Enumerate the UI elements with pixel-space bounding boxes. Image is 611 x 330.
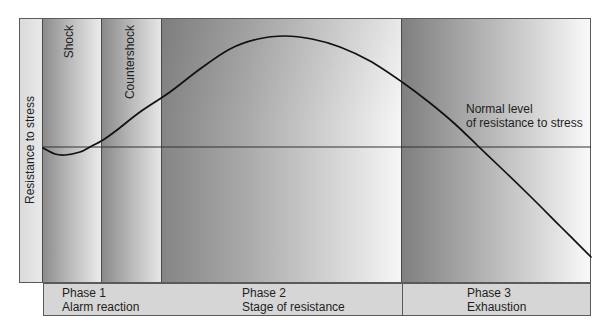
normal-level-label: Normal level of resistance to stress [466, 102, 583, 130]
y-axis-label: Resistance to stress [23, 60, 37, 240]
general-adaptation-syndrome-diagram: Resistance to stress Shock Countershock … [0, 0, 611, 330]
phase-2-stage: Stage of resistance [242, 300, 345, 314]
phase-2-name: Phase 2 [242, 286, 345, 300]
phase-1-box: Phase 1 Alarm reaction [43, 283, 163, 316]
normal-level-label-line2: of resistance to stress [466, 116, 583, 130]
phase-1-name: Phase 1 [62, 286, 139, 300]
phase-1-stage: Alarm reaction [62, 300, 139, 314]
curve-layer [0, 0, 611, 330]
phase-3-stage: Exhaustion [467, 300, 526, 314]
phase-3-name: Phase 3 [467, 286, 526, 300]
phase-2-box: Phase 2 Stage of resistance [162, 283, 403, 316]
normal-level-label-line1: Normal level [466, 102, 583, 116]
countershock-label: Countershock [123, 25, 137, 125]
shock-label: Shock [62, 25, 76, 125]
phase-3-box: Phase 3 Exhaustion [402, 283, 591, 316]
